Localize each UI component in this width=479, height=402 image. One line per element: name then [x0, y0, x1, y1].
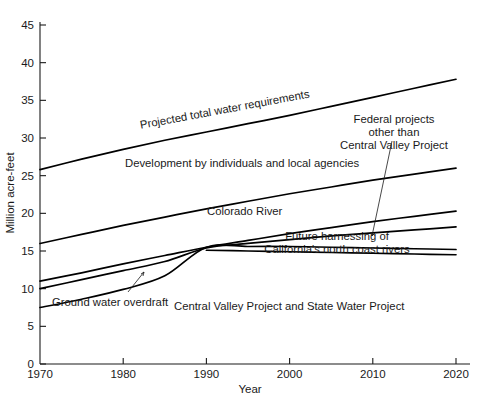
y-tick-label-35: 35: [21, 94, 34, 106]
y-axis-tick-labels: 051015202530354045: [21, 19, 34, 370]
y-tick-label-30: 30: [21, 132, 34, 144]
y-tick-label-25: 25: [21, 170, 34, 182]
y-axis-ticks: [40, 25, 46, 364]
y-axis-title: Million acre-feet: [4, 152, 16, 234]
x-axis-ticks: [123, 358, 456, 364]
leader-line-ground-water: [128, 272, 144, 292]
annotation-development-individuals: Development by individuals and local age…: [125, 157, 359, 170]
x-tick-label-2020: 2020: [443, 368, 469, 380]
x-tick-label-1990: 1990: [194, 368, 220, 380]
annotation-federal-line1: Federal projects: [324, 113, 464, 126]
x-tick-label-2010: 2010: [360, 368, 386, 380]
y-tick-label-40: 40: [21, 57, 34, 69]
annotation-ground-water-overdraft: Ground water overdraft: [52, 296, 168, 309]
axes: 051015202530354045 197019801990200020102…: [21, 19, 470, 380]
annotation-future-line1: Future harnessing of: [222, 230, 452, 243]
line-chart-plot: 051015202530354045 197019801990200020102…: [0, 0, 479, 402]
y-tick-label-15: 15: [21, 245, 34, 257]
annotation-future-harnessing: Future harnessing of California's north …: [222, 230, 452, 256]
annotation-future-line2: California's north coast rivers: [222, 243, 452, 256]
x-axis-tick-labels: 197019801990200020102020: [27, 368, 469, 380]
annotation-federal-line3: Central Valley Project: [324, 139, 464, 152]
annotation-colorado-river: Colorado River: [207, 205, 282, 218]
annotation-central-valley-state-water: Central Valley Project and State Water P…: [174, 300, 404, 313]
x-tick-label-1980: 1980: [110, 368, 136, 380]
chart-container: 051015202530354045 197019801990200020102…: [0, 0, 479, 402]
x-axis-title: Year: [238, 383, 261, 395]
y-tick-label-20: 20: [21, 207, 34, 219]
annotation-federal-line2: other than: [324, 126, 464, 139]
x-tick-label-1970: 1970: [27, 368, 53, 380]
leader-line-federal-projects: [372, 141, 392, 236]
x-tick-label-2000: 2000: [277, 368, 303, 380]
y-tick-label-5: 5: [28, 320, 34, 332]
annotation-federal-projects: Federal projects other than Central Vall…: [324, 113, 464, 153]
y-tick-label-45: 45: [21, 19, 34, 31]
y-tick-label-10: 10: [21, 283, 34, 295]
